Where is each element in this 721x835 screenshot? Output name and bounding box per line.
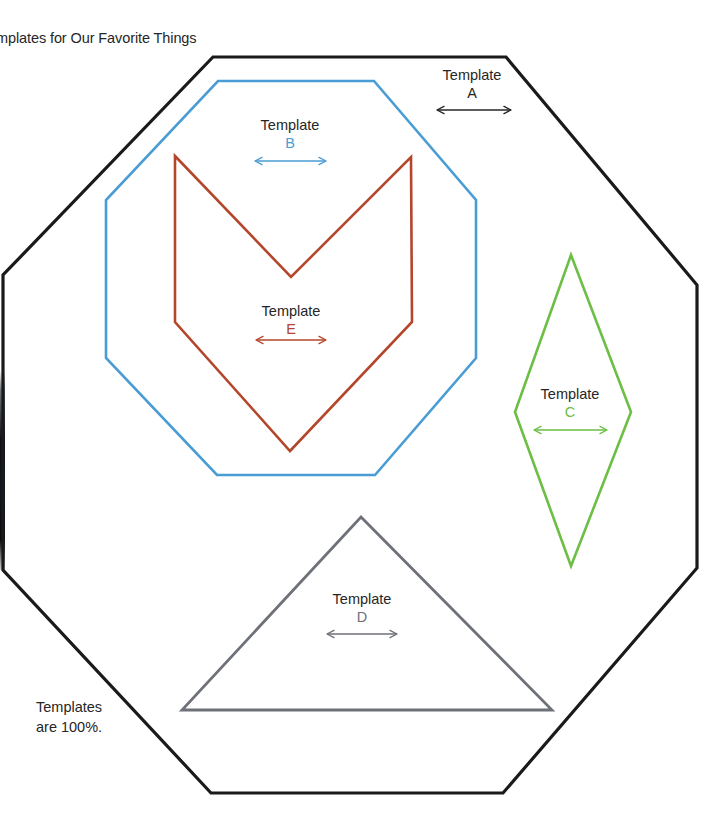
measure-arrow-a — [437, 106, 511, 113]
label-template-c: Template C — [500, 386, 640, 421]
label-template-a-word: Template — [402, 67, 542, 85]
shape-octagon-a — [3, 57, 697, 793]
label-template-b-letter: B — [220, 135, 360, 153]
label-template-d-letter: D — [292, 609, 432, 627]
measure-arrow-b — [255, 157, 326, 164]
label-template-b-word: Template — [220, 117, 360, 135]
measure-arrow-c — [534, 426, 607, 433]
label-template-d: Template D — [292, 591, 432, 626]
slide-canvas: emplates for Our Favorite Things Templat… — [0, 0, 721, 835]
label-template-a: Template A — [402, 67, 542, 102]
label-template-e-letter: E — [221, 321, 361, 339]
label-template-c-letter: C — [500, 404, 640, 422]
label-template-b: Template B — [220, 117, 360, 152]
label-template-e: Template E — [221, 303, 361, 338]
templates-scale-note: Templates are 100%. — [36, 698, 102, 737]
label-template-e-word: Template — [221, 303, 361, 321]
templates-scale-note-line1: Templates — [36, 698, 102, 718]
label-template-a-letter: A — [402, 85, 542, 103]
label-template-c-word: Template — [500, 386, 640, 404]
templates-scale-note-line2: are 100%. — [36, 718, 102, 738]
label-template-d-word: Template — [292, 591, 432, 609]
measure-arrow-d — [327, 630, 397, 637]
